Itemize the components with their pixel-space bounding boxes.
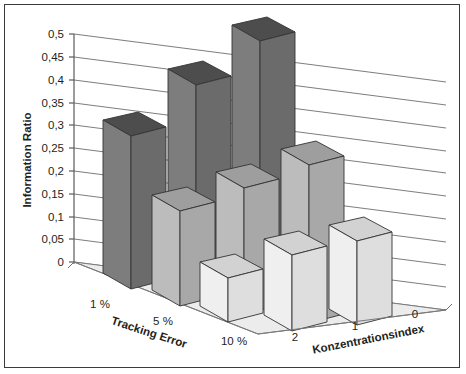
bar-front-right — [292, 246, 327, 331]
y-tick-label-7: 0,15 — [42, 188, 64, 200]
bar-front-left — [152, 195, 180, 306]
x-axis-title: Tracking Error — [110, 314, 189, 350]
y-axis-title: Information Ratio — [21, 112, 33, 207]
y-tick-label-3: 0,35 — [42, 97, 64, 109]
y-tick-label-5: 0,25 — [42, 142, 64, 154]
z-tick-3 — [446, 304, 452, 310]
chart-image: 0,5 0,45 0,4 0,35 0,3 0,25 0,2 0,15 0,1 … — [0, 0, 466, 374]
x-label-1pct: 1 % — [90, 298, 110, 310]
y-tick-label-2: 0,4 — [48, 74, 65, 86]
bar-front-right — [357, 232, 392, 325]
y-tick-labels: 0,5 0,45 0,4 0,35 0,3 0,25 0,2 0,15 0,1 … — [42, 28, 65, 268]
y-axis — [69, 34, 74, 264]
y-tick-label-10: 0 — [58, 256, 64, 268]
bar-ki0-right[interactable] — [329, 217, 392, 325]
bar-front-right — [228, 269, 263, 322]
bar-front-left — [103, 120, 131, 289]
x-tick-start — [68, 262, 74, 268]
x-label-5pct: 5 % — [153, 315, 173, 327]
y-tick-label-8: 0,1 — [48, 211, 64, 223]
z-label-1: 1 — [352, 320, 358, 332]
y-tick-label-1: 0,45 — [42, 51, 64, 63]
chart-svg: 0,5 0,45 0,4 0,35 0,3 0,25 0,2 0,15 0,1 … — [0, 0, 466, 374]
y-tick-label-0: 0,5 — [48, 28, 64, 40]
z-label-2: 2 — [292, 331, 298, 343]
z-label-0: 0 — [412, 308, 418, 320]
bar-te10-ki0[interactable] — [200, 254, 263, 322]
z-axis-title: Konzentrationsindex — [311, 322, 426, 356]
y-tick-label-9: 0,05 — [42, 233, 64, 245]
bar-ki0-mid[interactable] — [264, 231, 327, 331]
y-tick-label-4: 0,3 — [48, 119, 64, 131]
bar-front-left — [329, 225, 357, 325]
x-label-10pct: 10 % — [221, 335, 247, 347]
bar-front-left — [264, 239, 292, 331]
y-tick-label-6: 0,2 — [48, 165, 64, 177]
